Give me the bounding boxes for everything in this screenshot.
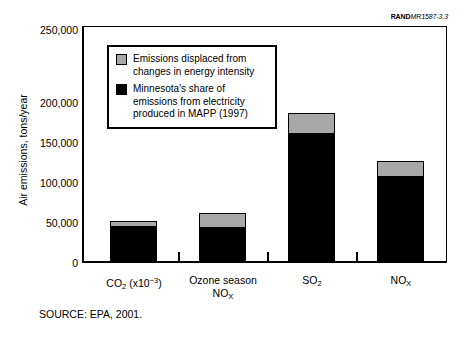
y-tick-label-250000: 250,000 xyxy=(40,24,78,36)
legend-label-displaced: Emissions displaced from changes in ener… xyxy=(133,53,254,78)
bar-so2-segment-displaced xyxy=(289,114,334,135)
legend-label-displaced-line1: Emissions displaced from xyxy=(133,53,246,64)
legend-label-minnesota-line2: emissions from electricity xyxy=(133,96,245,107)
legend-item-minnesota: Minnesota's share of emissions from elec… xyxy=(116,83,269,121)
y-axis-tick-labels: 0 50,000 100,000 150,000 200,000 250,000 xyxy=(0,0,78,338)
source-note: SOURCE: EPA, 2001. xyxy=(39,308,142,320)
legend-label-minnesota: Minnesota's share of emissions from elec… xyxy=(133,83,248,121)
legend-swatch-gray-icon xyxy=(116,54,127,65)
rand-identifier-bold: RAND xyxy=(391,13,411,20)
y-tick-label-100000: 100,000 xyxy=(40,177,78,189)
x-axis-label-ozone-season-nox: Ozone season NOX xyxy=(177,274,269,303)
bar-nox-segment-minnesota xyxy=(378,176,423,262)
bar-ozone-season-nox xyxy=(199,213,246,263)
y-tick-label-50000: 50,000 xyxy=(46,217,78,229)
rand-publication-identifier: RANDMR1587-3.3 xyxy=(391,13,448,20)
x-tick-mark-3 xyxy=(356,252,358,261)
legend-label-displaced-line2: changes in energy intensity xyxy=(133,66,254,77)
x-axis-label-so2-text: SO2 xyxy=(302,274,321,286)
legend-swatch-black-icon xyxy=(116,84,127,95)
y-tick-label-150000: 150,000 xyxy=(40,137,78,149)
bar-co2 xyxy=(110,221,157,263)
x-axis-label-ozone-line1: Ozone season xyxy=(189,274,257,286)
legend-label-minnesota-line3: produced in MAPP (1997) xyxy=(133,108,248,119)
x-axis-label-so2: SO2 xyxy=(266,274,358,290)
x-axis-label-ozone-line2: NOX xyxy=(213,287,234,299)
x-tick-mark-2 xyxy=(267,252,269,261)
figure-container: RANDMR1587-3.3 Air emissions, tons/year … xyxy=(0,0,465,338)
bar-ozone-segment-minnesota xyxy=(200,227,245,262)
legend-label-minnesota-line1: Minnesota's share of xyxy=(133,83,225,94)
bar-so2-segment-minnesota xyxy=(289,133,334,262)
x-axis-label-co2: CO2 (x10−3) xyxy=(88,274,180,293)
legend-item-displaced: Emissions displaced from changes in ener… xyxy=(116,53,269,78)
x-axis-label-nox-text: NOX xyxy=(391,274,412,286)
x-tick-mark-1 xyxy=(178,252,180,261)
x-axis-label-co2-text: CO2 (x10−3) xyxy=(106,277,161,289)
y-tick-label-0: 0 xyxy=(72,257,78,269)
y-tick-label-200000: 200,000 xyxy=(40,97,78,109)
bar-co2-segment-minnesota xyxy=(111,226,156,262)
rand-identifier-number: MR1587-3.3 xyxy=(410,13,448,20)
bar-nox xyxy=(377,161,424,263)
chart-legend: Emissions displaced from changes in ener… xyxy=(107,45,277,129)
x-axis-label-nox: NOX xyxy=(355,274,447,290)
bar-so2 xyxy=(288,113,335,263)
